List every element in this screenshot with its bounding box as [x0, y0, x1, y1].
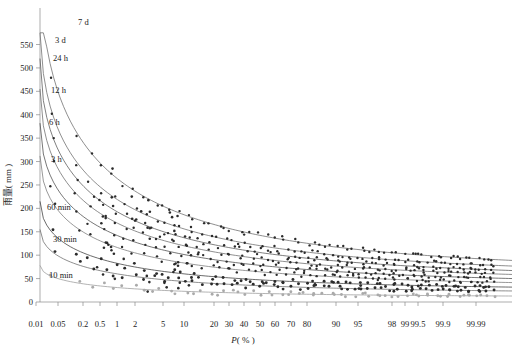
scatter-point: [261, 245, 263, 247]
scatter-point: [459, 295, 462, 298]
scatter-point: [378, 258, 380, 260]
scatter-point: [246, 250, 248, 252]
scatter-point: [135, 284, 138, 287]
scatter-point: [346, 264, 348, 266]
scatter-point: [418, 261, 420, 263]
scatter-point: [233, 264, 235, 266]
scatter-point: [311, 249, 313, 251]
scatter-point: [460, 281, 462, 283]
scatter-point: [312, 294, 315, 297]
scatter-point: [345, 281, 348, 284]
scatter-point: [367, 295, 370, 298]
scatter-point: [104, 217, 107, 220]
scatter-point: [130, 195, 133, 198]
scatter-point: [180, 255, 182, 257]
scatter-point: [232, 289, 235, 292]
scatter-point: [425, 287, 428, 290]
y-tick-label: 0: [29, 297, 33, 307]
scatter-point: [202, 243, 204, 245]
scatter-point: [340, 293, 343, 296]
scatter-point: [163, 222, 165, 224]
scatter-point: [465, 256, 467, 258]
scatter-point: [306, 282, 309, 285]
scatter-point: [98, 199, 101, 202]
scatter-point: [483, 258, 485, 260]
scatter-point: [216, 283, 219, 286]
scatter-point: [440, 261, 442, 263]
scatter-point: [74, 192, 76, 194]
scatter-point: [478, 269, 480, 271]
scatter-point: [463, 276, 465, 278]
scatter-point: [248, 268, 250, 270]
scatter-point: [76, 179, 78, 181]
scatter-point: [146, 290, 149, 293]
scatter-point: [110, 196, 113, 199]
scatter-point: [142, 196, 144, 198]
scatter-point: [254, 270, 256, 272]
scatter-point: [417, 284, 420, 287]
scatter-point: [404, 261, 406, 263]
scatter-point: [422, 271, 424, 273]
scatter-point: [428, 284, 431, 287]
scatter-point: [155, 246, 157, 248]
scatter-point: [462, 263, 464, 265]
curve-label: 30 min: [53, 234, 78, 244]
y-axis-title: 雨量( mm ): [3, 164, 13, 207]
scatter-point: [379, 282, 382, 285]
scatter-point: [467, 277, 469, 279]
scatter-point: [140, 210, 143, 213]
scatter-point: [441, 285, 444, 288]
scatter-point: [167, 232, 169, 234]
scatter-point: [272, 260, 274, 262]
scatter-point: [391, 251, 393, 253]
scatter-point: [239, 257, 241, 259]
scatter-point: [467, 272, 469, 274]
scatter-point: [254, 250, 256, 252]
scatter-point: [163, 282, 166, 285]
scatter-point: [213, 264, 215, 266]
x-tick-label: 30: [225, 319, 234, 329]
scatter-point: [454, 285, 457, 288]
scatter-point: [260, 294, 263, 297]
scatter-point: [420, 275, 422, 277]
scatter-point: [456, 263, 458, 265]
scatter-point: [352, 274, 354, 276]
x-tick-label: 80: [303, 319, 312, 329]
scatter-point: [285, 273, 287, 275]
scatter-point: [470, 281, 472, 283]
x-tick-label: 40: [240, 319, 249, 329]
scatter-point: [191, 218, 193, 220]
scatter-point: [252, 283, 255, 286]
x-tick-label: 0.05: [51, 319, 66, 329]
scatter-point: [490, 264, 492, 266]
scatter-point: [484, 268, 486, 270]
scatter-point: [245, 278, 248, 281]
scatter-point: [178, 210, 180, 212]
curve-label: 7 d: [78, 17, 89, 27]
scatter-point: [344, 295, 347, 298]
scatter-point: [244, 287, 247, 290]
scatter-point: [492, 272, 494, 274]
scatter-point: [143, 269, 146, 272]
curve-label: 60 min: [47, 202, 72, 212]
scatter-point: [378, 251, 380, 253]
scatter-point: [157, 287, 160, 290]
scatter-point: [373, 248, 375, 250]
scatter-point: [438, 255, 440, 257]
scatter-point: [151, 290, 154, 293]
scatter-point: [354, 295, 357, 298]
scatter-point: [249, 246, 251, 248]
scatter-point: [228, 230, 230, 232]
scatter-point: [462, 294, 465, 297]
scatter-point: [89, 233, 91, 235]
scatter-point: [114, 195, 116, 197]
scatter-point: [388, 274, 390, 276]
scatter-point: [432, 270, 434, 272]
scatter-point: [340, 287, 343, 290]
scatter-point: [365, 272, 367, 274]
scatter-point: [256, 253, 258, 255]
scatter-point: [493, 288, 496, 291]
scatter-point: [203, 222, 205, 224]
scatter-point: [267, 259, 269, 261]
scatter-point: [453, 279, 455, 281]
